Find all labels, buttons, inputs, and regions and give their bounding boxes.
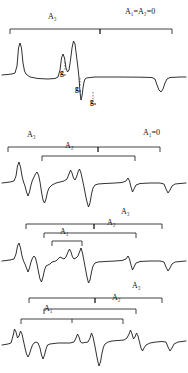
- panel1-bracket-a3: [10, 29, 100, 34]
- panel4-label-a3: A₃: [132, 282, 141, 290]
- panel1-bracket-right: [100, 29, 172, 34]
- panel3-trace: [2, 243, 186, 283]
- panel3-bracket-a1: [52, 241, 82, 246]
- figure-root: A₃ A₁=A₂=0 g₁ g₂ g₃ A₃ A₂ A₁=0 A₃ A₂ A₁ …: [0, 0, 188, 373]
- panel4-label-a1: A₁: [44, 305, 53, 313]
- panel1-label-a3: A₃: [48, 13, 57, 21]
- panel1-label-g1: g₁: [60, 69, 66, 77]
- panel3-label-a2: A₂: [107, 219, 116, 227]
- panel4-bracket-a1: [21, 319, 123, 324]
- panel2-condition-label: A₁=0: [143, 129, 160, 137]
- panel2-bracket-a3: [8, 147, 98, 152]
- panel1-trace: [2, 41, 186, 100]
- panel2-trace: [2, 162, 186, 207]
- panel4-bracket-a3: [29, 298, 95, 303]
- panel3-bracket-a3-right: [94, 224, 162, 229]
- panel4-trace: [2, 329, 186, 366]
- panel1-label-g2: g₂: [75, 85, 81, 93]
- panel2-bracket-a2: [42, 156, 135, 161]
- panel4-bracket-a2: [44, 309, 136, 314]
- panel4-label-a2: A₂: [112, 294, 121, 302]
- panel3-bracket-a2: [44, 233, 136, 238]
- spectra-canvas: [0, 0, 188, 373]
- panel3-label-a1: A₁: [60, 228, 69, 236]
- panel2-label-a2: A₂: [65, 142, 74, 150]
- panel3-label-a3: A₃: [121, 208, 130, 216]
- panel2-bracket-a3-right: [98, 147, 160, 152]
- panel1-label-g3: g₃: [90, 98, 96, 106]
- panel4-bracket-a3-right: [95, 298, 162, 303]
- panel2-label-a3: A₃: [27, 131, 36, 139]
- panel1-condition-label: A₁=A₂=0: [125, 8, 155, 16]
